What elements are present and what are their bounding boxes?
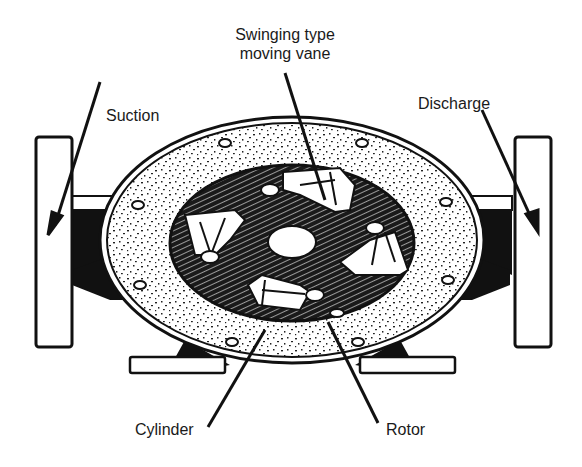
pump-drawing [0, 0, 582, 467]
cylinder-label: Cylinder [135, 420, 194, 439]
discharge-label: Discharge [418, 94, 490, 113]
vane-label-line2: moving vane [200, 44, 370, 63]
pump-diagram: Swinging type moving vane Suction Discha… [0, 0, 582, 467]
vane-label-line1: Swinging type [200, 25, 370, 44]
vane-label: Swinging type moving vane [200, 25, 370, 63]
suction-label: Suction [106, 106, 159, 125]
rotor-label: Rotor [386, 420, 425, 439]
